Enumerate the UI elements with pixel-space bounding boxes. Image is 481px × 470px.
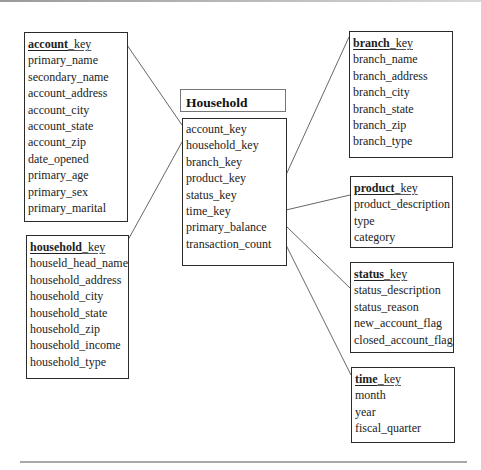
branch-key-suffix: _key <box>390 36 413 50</box>
top-rule <box>0 0 481 2</box>
field: secondary_name <box>28 69 125 85</box>
household-dimension: household_key houseld_head_name househol… <box>26 235 129 379</box>
branch-dimension: branch_key branch_name branch_address br… <box>349 31 453 158</box>
household-key-row: household_key <box>30 239 126 255</box>
household-key-suffix: _key <box>82 240 105 254</box>
field: branch_zip <box>353 117 450 133</box>
link-household-fact <box>128 142 182 240</box>
link-account-fact <box>127 45 182 125</box>
status-key-row: status_key <box>354 266 451 282</box>
fact-field: household_key <box>186 137 284 153</box>
status-dimension: status_key status_description status_rea… <box>350 262 454 353</box>
account-key-row: account_key <box>28 36 125 52</box>
field: branch_address <box>353 68 450 84</box>
account-key-name: account <box>28 37 68 51</box>
link-fact-product <box>286 195 350 210</box>
field: branch_state <box>353 101 450 117</box>
field: account_city <box>28 102 125 118</box>
field: household_income <box>30 337 126 353</box>
time-dimension: time_key month year fiscal_quarter <box>351 367 455 443</box>
field: branch_type <box>353 133 450 149</box>
fact-field: transaction_count <box>186 236 284 252</box>
field: account_address <box>28 85 125 101</box>
link-fact-branch <box>286 37 349 175</box>
field: primary_sex <box>28 184 125 200</box>
field: account_state <box>28 118 125 134</box>
branch-key-row: branch_key <box>353 35 450 51</box>
account-dimension: account_key primary_name secondary_name … <box>24 32 128 222</box>
link-fact-time <box>286 245 351 375</box>
product-key-name: product <box>354 181 394 195</box>
field: houseld_head_name <box>30 255 126 271</box>
product-key-suffix: _key <box>394 181 417 195</box>
fact-field: branch_key <box>186 154 284 170</box>
field: primary_age <box>28 167 125 183</box>
link-fact-status <box>286 226 350 288</box>
field: type <box>354 213 450 229</box>
status-key-name: status <box>354 267 384 281</box>
product-dimension: product_key product_description type cat… <box>350 176 453 248</box>
field: product_description <box>354 196 450 212</box>
time-key-name: time <box>355 372 378 386</box>
account-key-suffix: _key <box>68 37 91 51</box>
time-key-suffix: _key <box>378 372 401 386</box>
field: fiscal_quarter <box>355 420 452 436</box>
field: month <box>355 387 452 403</box>
fact-table: account_key household_key branch_key pro… <box>182 118 287 266</box>
fact-field: time_key <box>186 203 284 219</box>
fact-field: product_key <box>186 170 284 186</box>
fact-field: status_key <box>186 187 284 203</box>
branch-key-name: branch <box>353 36 390 50</box>
field: closed_account_flag <box>354 332 451 348</box>
time-key-row: time_key <box>355 371 452 387</box>
field: date_opened <box>28 151 125 167</box>
fact-title-box: Household Facts <box>180 89 286 112</box>
field: new_account_flag <box>354 315 451 331</box>
field: status_reason <box>354 299 451 315</box>
fact-field: account_key <box>186 121 284 137</box>
field: year <box>355 404 452 420</box>
field: branch_name <box>353 51 450 67</box>
product-key-row: product_key <box>354 180 450 196</box>
field: branch_city <box>353 84 450 100</box>
field: household_type <box>30 354 126 370</box>
household-key-name: household <box>30 240 82 254</box>
bottom-rule <box>20 461 467 463</box>
field: account_zip <box>28 134 125 150</box>
field: primary_name <box>28 52 125 68</box>
field: primary_marital <box>28 200 125 216</box>
fact-field: primary_balance <box>186 219 284 235</box>
field: household_city <box>30 288 126 304</box>
field: category <box>354 229 450 245</box>
status-key-suffix: _key <box>384 267 407 281</box>
field: household_state <box>30 305 126 321</box>
field: household_zip <box>30 321 126 337</box>
field: household_address <box>30 272 126 288</box>
field: status_description <box>354 282 451 298</box>
